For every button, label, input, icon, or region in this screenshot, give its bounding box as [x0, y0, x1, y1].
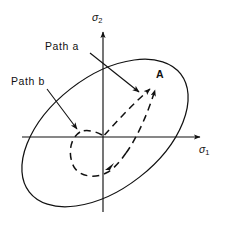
path-b-direction-arrow [105, 163, 114, 170]
path-b-curve [70, 90, 155, 176]
path-b-leader [47, 89, 77, 129]
stress-path-figure: Path a Path b A σ1 σ2 [0, 0, 229, 225]
axis-label-sigma1: σ1 [199, 144, 210, 156]
path-a-label: Path a [45, 41, 79, 52]
path-b-label: Path b [11, 76, 45, 87]
figure-canvas [0, 0, 229, 225]
yield-surface-ellipse [0, 30, 215, 225]
axis-label-sigma2: σ2 [92, 12, 103, 24]
path-a-leader [90, 53, 139, 92]
axis-label-sigma1-subscript: 1 [205, 148, 209, 157]
point-a-label: A [156, 69, 164, 80]
path-a-curve [105, 89, 151, 135]
axis-label-sigma2-subscript: 2 [98, 16, 102, 25]
